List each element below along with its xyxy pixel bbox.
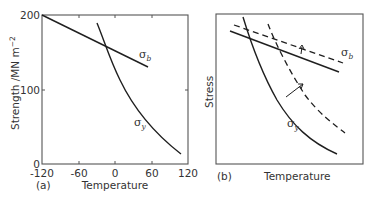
sigma-y-label: σy [287, 117, 300, 132]
sigma-y-shift-arrow [286, 84, 303, 97]
sigma-y-curve [243, 17, 337, 154]
x-tick-label: -120 [30, 167, 54, 179]
panel-b-tag: (b) [217, 170, 232, 182]
panel-a-tag: (a) [36, 179, 51, 191]
x-axis-label: Temperature [81, 179, 149, 191]
y-axis-label-sup: −2 [8, 36, 17, 47]
panel-b: Stress (b) Temperature σb σy [203, 14, 363, 182]
panel-a: 200 100 0 -120 -60 0 60 120 (a) Temperat… [8, 9, 198, 191]
sigma-y-curve [97, 23, 181, 154]
x-tick-label: 120 [178, 167, 198, 179]
sigma-y-dashed-curve [268, 24, 345, 133]
y-axis-label-main: Strength /MN m [9, 47, 21, 130]
y-axis-label: Stress [203, 76, 215, 108]
panel-b-frame [216, 14, 363, 164]
x-tick-label: 60 [145, 167, 158, 179]
sigma-b-line [42, 15, 148, 67]
sigma-b-label: σb [341, 46, 354, 61]
y-tick-label: 100 [20, 84, 40, 96]
x-axis-label: Temperature [263, 170, 331, 182]
x-tick-label: 0 [112, 167, 119, 179]
y-tick-label: 200 [20, 9, 40, 21]
x-tick-label: -60 [70, 167, 87, 179]
sigma-b-label: σb [139, 48, 152, 63]
y-axis-label: Strength /MN m−2 [8, 36, 21, 130]
figure: 200 100 0 -120 -60 0 60 120 (a) Temperat… [0, 0, 376, 201]
sigma-b-line [230, 31, 339, 72]
sigma-b-dashed-line [234, 25, 343, 63]
